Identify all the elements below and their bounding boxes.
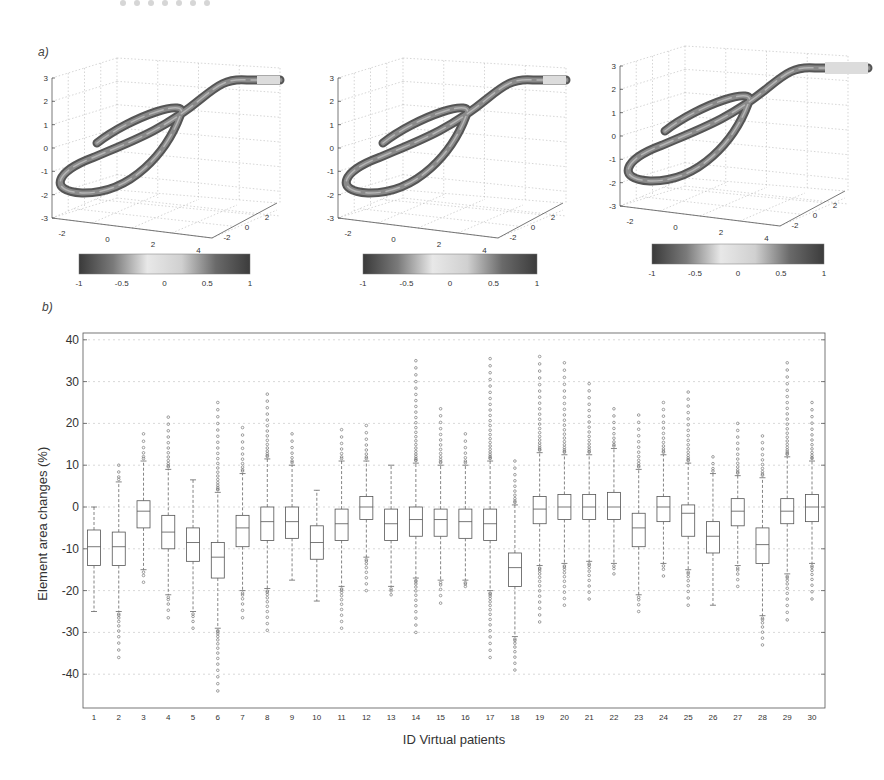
outlier-point bbox=[613, 415, 616, 418]
outlier-point bbox=[216, 475, 219, 478]
outlier-point bbox=[563, 383, 566, 386]
x-tick-label: 0 bbox=[673, 223, 678, 232]
y-tick-label: 2 bbox=[833, 201, 838, 210]
outlier-point bbox=[415, 359, 418, 362]
y-tick-label: 2 bbox=[265, 213, 270, 222]
iqr-box bbox=[112, 532, 125, 565]
outlier-point bbox=[514, 473, 517, 476]
outlier-point bbox=[538, 396, 541, 399]
outlier-point bbox=[786, 423, 789, 426]
outlier-point bbox=[613, 573, 616, 576]
outlier-point bbox=[588, 426, 591, 429]
outlier-point bbox=[266, 596, 269, 599]
box-patient-12 bbox=[360, 424, 373, 592]
z-tick-label: -2 bbox=[41, 191, 49, 200]
outlier-point bbox=[415, 367, 418, 370]
box-patient-7 bbox=[236, 426, 249, 619]
outlier-point bbox=[563, 390, 566, 393]
outlier-point bbox=[514, 460, 517, 463]
iqr-box bbox=[286, 507, 299, 538]
outlier-point bbox=[514, 479, 517, 482]
outlier-point bbox=[167, 451, 170, 454]
outlier-point bbox=[489, 414, 492, 417]
outlier-point bbox=[786, 446, 789, 449]
outlier-point bbox=[687, 447, 690, 450]
outlier-point bbox=[266, 413, 269, 416]
outlier-point bbox=[117, 642, 120, 645]
3d-plot-1: 3210-1-2-3-2024-202-1-0.500.51 bbox=[41, 58, 280, 288]
outlier-point bbox=[365, 424, 368, 427]
outlier-point bbox=[464, 456, 467, 459]
outlier-point bbox=[662, 415, 665, 418]
outlier-point bbox=[489, 445, 492, 448]
outlier-point bbox=[538, 418, 541, 421]
outlier-point bbox=[761, 626, 764, 629]
outlier-point bbox=[786, 611, 789, 614]
outlier-point bbox=[340, 436, 343, 439]
outlier-point bbox=[761, 448, 764, 451]
x-tick-label: 4 bbox=[482, 246, 487, 255]
y-tick-label: 20 bbox=[66, 416, 80, 430]
x-tick-label: 11 bbox=[337, 713, 346, 722]
box-patient-1 bbox=[88, 507, 101, 612]
outlier-point bbox=[340, 627, 343, 630]
outlier-point bbox=[415, 440, 418, 443]
outlier-point bbox=[216, 663, 219, 666]
outlier-point bbox=[662, 401, 665, 404]
outlier-point bbox=[415, 599, 418, 602]
outlier-point bbox=[117, 649, 120, 652]
outlier-point bbox=[167, 447, 170, 450]
outlier-point bbox=[687, 405, 690, 408]
colorbar-tick-label: 1 bbox=[248, 279, 253, 288]
outlier-point bbox=[563, 396, 566, 399]
outlier-point bbox=[489, 409, 492, 412]
x-tick-label: 14 bbox=[411, 713, 420, 722]
x-axis-label: ID Virtual patients bbox=[403, 732, 506, 747]
outlier-point bbox=[637, 434, 640, 437]
outlier-point bbox=[291, 456, 294, 459]
outlier-point bbox=[786, 395, 789, 398]
outlier-point bbox=[365, 571, 368, 574]
outlier-point bbox=[786, 579, 789, 582]
outlier-point bbox=[241, 458, 244, 461]
outlier-point bbox=[216, 481, 219, 484]
x-tick-label: 5 bbox=[191, 713, 196, 722]
outlier-point bbox=[415, 399, 418, 402]
outlier-point bbox=[538, 573, 541, 576]
outlier-point bbox=[563, 604, 566, 607]
outlier-point bbox=[687, 398, 690, 401]
x-tick-label: 29 bbox=[783, 713, 792, 722]
outlier-point bbox=[687, 418, 690, 421]
outlier-point bbox=[464, 452, 467, 455]
z-tick-label: 2 bbox=[330, 97, 335, 106]
outlier-point bbox=[489, 642, 492, 645]
outlier-point bbox=[216, 462, 219, 465]
outlier-point bbox=[216, 415, 219, 418]
outlier-point bbox=[514, 642, 517, 645]
outlier-point bbox=[811, 434, 814, 437]
iqr-box bbox=[261, 507, 274, 540]
box-patient-11 bbox=[335, 428, 348, 629]
colorbar-tick-label: 0 bbox=[162, 279, 167, 288]
y-tick-label: -20 bbox=[62, 584, 80, 598]
outlier-point bbox=[588, 421, 591, 424]
outlier-point bbox=[117, 656, 120, 659]
outlier-point bbox=[266, 419, 269, 422]
outlier-point bbox=[167, 609, 170, 612]
box-patient-17 bbox=[484, 357, 497, 658]
outlier-point bbox=[786, 361, 789, 364]
outlier-point bbox=[514, 669, 517, 672]
outlier-point bbox=[142, 452, 145, 455]
z-tick-label: 0 bbox=[612, 132, 617, 141]
outlier-point bbox=[687, 579, 690, 582]
outlier-point bbox=[538, 383, 541, 386]
outlier-point bbox=[489, 364, 492, 367]
box-patient-21 bbox=[583, 382, 596, 600]
x-tick-label: 17 bbox=[486, 713, 495, 722]
box-patient-2 bbox=[112, 464, 125, 659]
outlier-point bbox=[439, 588, 442, 591]
outlier-point bbox=[736, 429, 739, 432]
x-tick-label: 7 bbox=[240, 713, 245, 722]
outlier-point bbox=[167, 616, 170, 619]
x-tick-label: 28 bbox=[758, 713, 767, 722]
